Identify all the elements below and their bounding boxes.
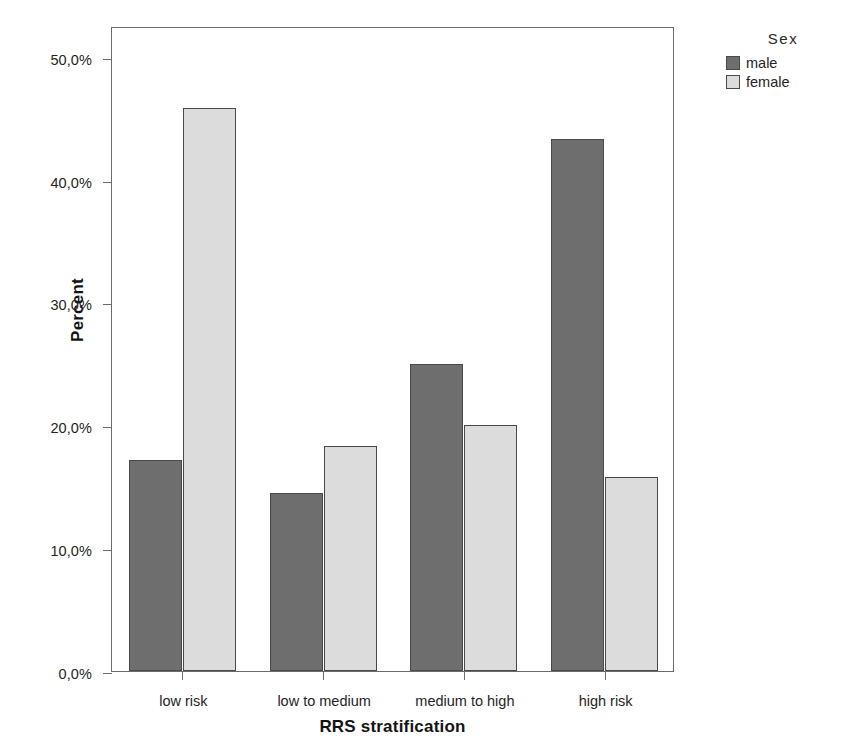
y-tick-label: 0,0% (59, 666, 92, 682)
x-tick: low risk (182, 671, 183, 680)
bar-female-high-risk (605, 477, 658, 671)
bar-male-low-to-medium (270, 493, 323, 671)
y-tick-label: 40,0% (50, 175, 92, 191)
y-tick-label: 20,0% (50, 420, 92, 436)
bar-male-high-risk (551, 139, 604, 671)
y-tick: 20,0% (103, 427, 112, 428)
plot-frame: 0,0%10,0%20,0%30,0%40,0%50,0% low risklo… (111, 27, 674, 672)
legend-item-male: male (726, 55, 844, 71)
plot-area: 0,0%10,0%20,0%30,0%40,0%50,0% low risklo… (112, 28, 673, 671)
x-tick-label: high risk (579, 693, 633, 709)
x-axis-title: RRS stratification (111, 717, 674, 737)
y-tick-label: 50,0% (50, 52, 92, 68)
y-tick: 40,0% (103, 182, 112, 183)
y-tick: 10,0% (103, 550, 112, 551)
y-tick: 50,0% (103, 59, 112, 60)
legend-item-label: male (746, 55, 777, 71)
bar-male-low-risk (129, 460, 182, 671)
y-tick-label: 10,0% (50, 543, 92, 559)
legend-items: malefemale (726, 55, 844, 90)
x-tick-label: low risk (159, 693, 207, 709)
x-tick: high risk (605, 671, 606, 680)
legend-item-female: female (726, 74, 844, 90)
y-tick-label: 30,0% (50, 297, 92, 313)
x-tick-label: low to medium (277, 693, 370, 709)
x-tick: low to medium (323, 671, 324, 680)
x-tick: medium to high (464, 671, 465, 680)
x-tick-label: medium to high (415, 693, 514, 709)
bar-female-low-to-medium (324, 446, 377, 671)
bar-female-low-risk (183, 108, 236, 671)
male-swatch-icon (726, 56, 740, 70)
y-tick: 0,0% (103, 673, 112, 674)
bar-male-medium-to-high (410, 364, 463, 671)
bar-female-medium-to-high (464, 425, 517, 671)
legend-item-label: female (746, 74, 790, 90)
legend: Sex malefemale (726, 30, 844, 93)
legend-title: Sex (740, 30, 826, 47)
female-swatch-icon (726, 75, 740, 89)
bar-chart: Percent 0,0%10,0%20,0%30,0%40,0%50,0% lo… (0, 0, 848, 754)
y-tick: 30,0% (103, 304, 112, 305)
